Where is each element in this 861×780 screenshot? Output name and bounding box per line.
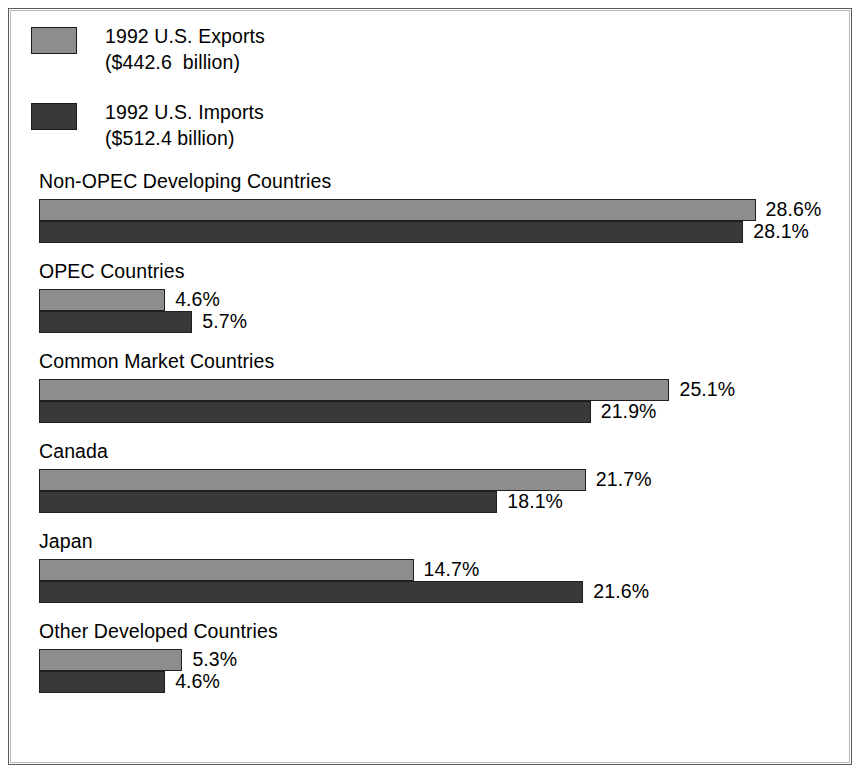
chart-content: 1992 U.S. Exports ($442.6 billion) 1992 … [9, 9, 853, 766]
bar-exports[interactable] [39, 379, 669, 401]
bar-row-imports: 21.6% [39, 581, 839, 603]
bar-value-exports: 21.7% [596, 467, 652, 491]
bar-row-imports: 21.9% [39, 401, 839, 423]
bar-value-imports: 5.7% [202, 309, 247, 333]
legend-label-exports: 1992 U.S. Exports ($442.6 billion) [105, 23, 265, 75]
bar-group-label: Common Market Countries [39, 349, 274, 373]
bar-imports[interactable] [39, 491, 497, 513]
bar-row-exports: 21.7% [39, 469, 839, 491]
bar-row-exports: 28.6% [39, 199, 839, 221]
bar-row-imports: 4.6% [39, 671, 839, 693]
bar-exports[interactable] [39, 199, 756, 221]
bar-group-label: Other Developed Countries [39, 619, 278, 643]
bar-value-exports: 5.3% [192, 647, 237, 671]
legend-label-imports-line1: 1992 U.S. Imports [105, 101, 264, 123]
bar-value-imports: 4.6% [175, 669, 220, 693]
bar-row-exports: 25.1% [39, 379, 839, 401]
bar-exports[interactable] [39, 289, 165, 311]
bar-group-label: Canada [39, 439, 108, 463]
legend-label-exports-line2: ($442.6 billion) [105, 51, 240, 73]
chart-page: 1992 U.S. Exports ($442.6 billion) 1992 … [0, 0, 861, 780]
bar-row-exports: 4.6% [39, 289, 839, 311]
bar-value-exports: 28.6% [766, 197, 822, 221]
bar-row-imports: 28.1% [39, 221, 839, 243]
bar-row-imports: 5.7% [39, 311, 839, 333]
chart-plot-area: Non-OPEC Developing Countries28.6%28.1%O… [9, 169, 853, 759]
bar-row-imports: 18.1% [39, 491, 839, 513]
bar-value-exports: 4.6% [175, 287, 220, 311]
legend-label-imports-line2: ($512.4 billion) [105, 127, 235, 149]
bar-row-exports: 5.3% [39, 649, 839, 671]
bar-value-imports: 28.1% [753, 219, 809, 243]
legend-label-imports: 1992 U.S. Imports ($512.4 billion) [105, 99, 264, 151]
chart-frame-border: 1992 U.S. Exports ($442.6 billion) 1992 … [8, 8, 852, 765]
bar-imports[interactable] [39, 311, 192, 333]
bar-row-exports: 14.7% [39, 559, 839, 581]
chart-legend: 1992 U.S. Exports ($442.6 billion) 1992 … [31, 23, 511, 175]
bar-imports[interactable] [39, 581, 583, 603]
bar-exports[interactable] [39, 469, 586, 491]
bar-group-label: OPEC Countries [39, 259, 185, 283]
bar-imports[interactable] [39, 221, 743, 243]
bar-group-label: Non-OPEC Developing Countries [39, 169, 331, 193]
bar-value-exports: 14.7% [424, 557, 480, 581]
bar-imports[interactable] [39, 401, 591, 423]
legend-swatch-exports [31, 27, 77, 54]
bar-group-label: Japan [39, 529, 93, 553]
bar-exports[interactable] [39, 649, 182, 671]
legend-label-exports-line1: 1992 U.S. Exports [105, 25, 265, 47]
bar-value-imports: 21.9% [601, 399, 657, 423]
bar-imports[interactable] [39, 671, 165, 693]
bar-value-imports: 21.6% [593, 579, 649, 603]
legend-item-imports: 1992 U.S. Imports ($512.4 billion) [31, 99, 511, 151]
bar-value-imports: 18.1% [507, 489, 563, 513]
legend-swatch-imports [31, 103, 77, 130]
bar-exports[interactable] [39, 559, 414, 581]
legend-item-exports: 1992 U.S. Exports ($442.6 billion) [31, 23, 511, 75]
bar-value-exports: 25.1% [679, 377, 735, 401]
